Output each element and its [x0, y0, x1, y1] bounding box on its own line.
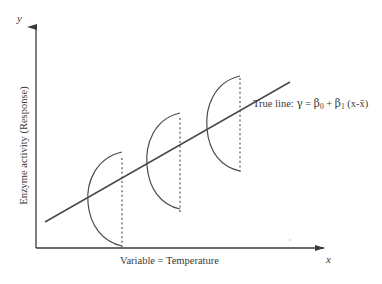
true-line-term: (x-x̄)	[345, 98, 369, 109]
true-line-annotation: True line: γ = β0 + β1 (x-x̄)	[253, 97, 368, 111]
x-axis-variable-label: x	[326, 253, 331, 265]
distribution-curve-high	[207, 76, 240, 171]
x-axis-title: Variable = Temperature	[120, 255, 219, 266]
true-line-prefix: True line:	[253, 98, 296, 109]
distribution-curve-low	[88, 152, 122, 246]
scan-speck	[289, 239, 291, 241]
true-line-equals: =	[303, 98, 314, 109]
y-axis-variable-label: y	[17, 12, 22, 24]
true-line-plus: +	[324, 98, 335, 109]
y-axis-title: Enzyme activity (Response)	[18, 71, 29, 221]
regression-figure	[0, 0, 382, 284]
